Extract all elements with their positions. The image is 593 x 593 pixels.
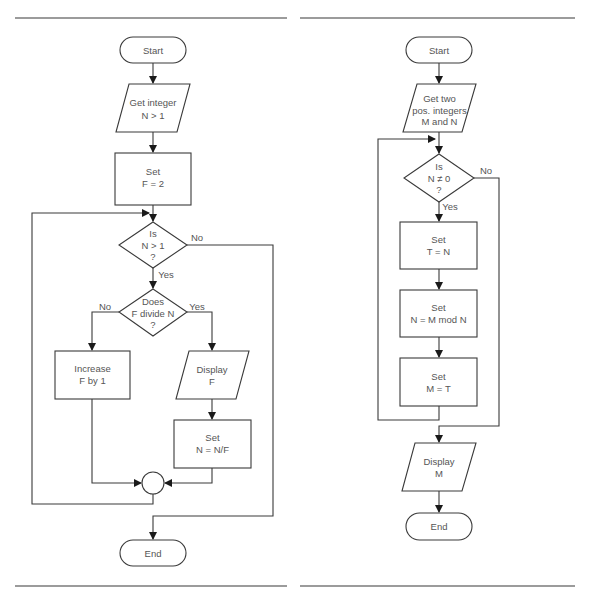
process-increase-f: Increase F by 1 <box>55 351 130 399</box>
svg-text:Is: Is <box>435 161 443 172</box>
svg-text:N > 1: N > 1 <box>142 110 165 121</box>
decision-f-divides-n: Does F divide N ? <box>119 289 187 336</box>
connector-circle <box>142 472 164 494</box>
label-no: No <box>480 165 492 176</box>
svg-text:pos. integers: pos. integers <box>412 105 467 116</box>
start-terminal: Start <box>120 37 186 63</box>
svg-text:Does: Does <box>142 296 164 307</box>
svg-text:Start: Start <box>429 45 449 56</box>
label-yes: Yes <box>158 269 174 280</box>
label-yes: Yes <box>189 301 205 312</box>
svg-text:N = M mod N: N = M mod N <box>410 314 466 325</box>
input-get-integer: Get integer N > 1 <box>116 84 190 132</box>
process-set-t: Set T = N <box>400 222 477 269</box>
right-flowchart: Start Get two pos. integers M and N Is N… <box>378 37 499 540</box>
svg-text:T = N: T = N <box>427 246 450 257</box>
arrow-divide-to-connector <box>165 468 212 483</box>
svg-text:F by 1: F by 1 <box>79 375 105 386</box>
label-no: No <box>191 232 203 243</box>
end-terminal: End <box>120 540 186 566</box>
svg-text:Increase: Increase <box>74 363 110 374</box>
svg-text:F: F <box>209 376 215 387</box>
svg-text:Set: Set <box>431 371 446 382</box>
arrow-no-to-increase <box>92 312 119 350</box>
svg-text:Set: Set <box>431 234 446 245</box>
svg-text:M = T: M = T <box>426 383 451 394</box>
svg-text:N ≠ 0: N ≠ 0 <box>428 173 451 184</box>
arrow-yes-to-display <box>187 312 212 350</box>
label-no: No <box>99 301 111 312</box>
process-set-m: Set M = T <box>400 358 477 406</box>
process-set-f: Set F = 2 <box>115 153 191 205</box>
svg-text:Get integer: Get integer <box>130 97 177 108</box>
svg-text:M: M <box>435 468 443 479</box>
arrow-increase-to-connector <box>92 399 141 483</box>
svg-text:?: ? <box>436 184 441 195</box>
left-flowchart: Start Get integer N > 1 Set F = 2 Is N >… <box>32 37 273 566</box>
start-terminal: Start <box>406 37 472 63</box>
svg-text:M and N: M and N <box>422 116 458 127</box>
input-get-two-integers: Get two pos. integers M and N <box>403 84 476 132</box>
end-terminal: End <box>406 513 472 540</box>
svg-text:F = 2: F = 2 <box>142 178 164 189</box>
process-set-n-mod: Set N = M mod N <box>400 290 477 337</box>
decision-n-not-zero: Is N ≠ 0 ? <box>404 154 474 202</box>
output-display-m: Display M <box>402 443 476 491</box>
svg-text:Set: Set <box>205 432 220 443</box>
svg-text:Get two: Get two <box>423 93 456 104</box>
svg-text:Set: Set <box>146 166 161 177</box>
label-yes: Yes <box>442 201 458 212</box>
svg-text:Is: Is <box>149 228 157 239</box>
flowchart-canvas: Start Get integer N > 1 Set F = 2 Is N >… <box>0 0 593 593</box>
svg-text:N = N/F: N = N/F <box>196 444 229 455</box>
svg-text:?: ? <box>150 319 155 330</box>
svg-text:Display: Display <box>196 364 227 375</box>
svg-text:Start: Start <box>143 45 163 56</box>
process-set-n: Set N = N/F <box>174 420 251 468</box>
svg-text:End: End <box>145 548 162 559</box>
svg-text:N > 1: N > 1 <box>142 240 165 251</box>
svg-text:?: ? <box>150 251 155 262</box>
svg-text:Display: Display <box>423 456 454 467</box>
svg-text:F divide N: F divide N <box>132 308 175 319</box>
svg-text:End: End <box>431 521 448 532</box>
output-display-f: Display F <box>176 351 249 399</box>
decision-n-greater-1: Is N > 1 ? <box>119 222 187 268</box>
svg-text:Set: Set <box>431 302 446 313</box>
